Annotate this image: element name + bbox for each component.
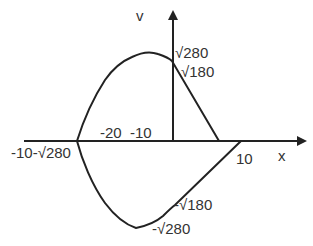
label-y-neg-sqrt280: -√280 [152, 221, 190, 236]
y-axis-label: v [136, 8, 144, 23]
label-x-neg-10: -10 [130, 125, 152, 140]
label-x-pos-10: 10 [236, 151, 253, 166]
phase-diagram: v x √280 √180 -20 -10 -10-√280 10 -√180 … [0, 0, 313, 246]
x-axis-arrow-icon [297, 136, 307, 146]
lower-trajectory [77, 141, 241, 228]
diagram-canvas [0, 0, 313, 246]
x-axis-label: x [278, 148, 286, 163]
label-y-pos-sqrt180: √180 [181, 64, 214, 79]
label-y-pos-sqrt280: √280 [175, 45, 208, 60]
y-axis-arrow-icon [168, 10, 178, 20]
label-y-neg-sqrt180: -√180 [174, 197, 212, 212]
label-x-neg-20: -20 [100, 125, 122, 140]
label-x-left-root: -10-√280 [11, 145, 71, 160]
